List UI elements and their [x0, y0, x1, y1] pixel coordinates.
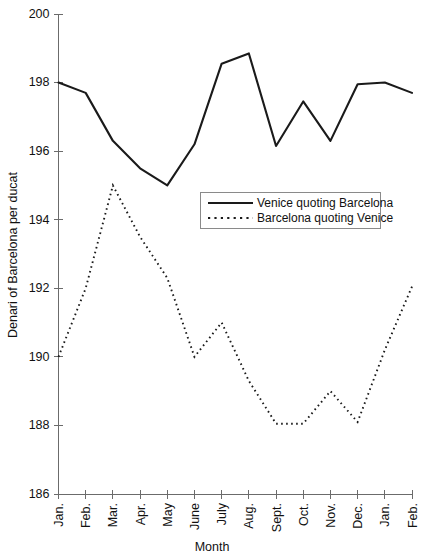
chart-container: 200198196194192190188186 Jan.Feb.Mar.Apr…	[0, 0, 425, 559]
series-layer	[59, 53, 413, 423]
y-tick-label: 188	[29, 418, 50, 432]
y-axis-tick-labels: 200198196194192190188186	[29, 7, 50, 501]
x-tick-label: Sept.	[270, 503, 284, 532]
legend-label-venice-quoting-barcelona: Venice quoting Barcelona	[257, 196, 393, 210]
x-axis-title: Month	[195, 540, 230, 554]
x-tick-label: Jan.	[52, 503, 66, 527]
y-axis-title: Denari of Barcelona per ducat	[6, 171, 20, 338]
y-tick-label: 196	[29, 144, 50, 158]
x-tick-label: Oct.	[297, 503, 311, 526]
x-axis-tick-labels: Jan.Feb.Mar.Apr.MayJuneJulyAug.Sept.Oct.…	[52, 502, 420, 532]
y-axis: 200198196194192190188186	[29, 7, 63, 501]
x-tick-label: Feb.	[79, 503, 93, 528]
x-tick-label: Dec.	[351, 503, 365, 529]
x-tick-label: Nov.	[324, 503, 338, 528]
y-tick-label: 186	[29, 487, 50, 501]
y-tick-label: 190	[29, 350, 50, 364]
x-axis: Jan.Feb.Mar.Apr.MayJuneJulyAug.Sept.Oct.…	[52, 490, 420, 533]
y-tick-label: 194	[29, 213, 50, 227]
legend-label-barcelona-quoting-venice: Barcelona quoting Venice	[257, 211, 393, 225]
y-tick-label: 200	[29, 7, 50, 21]
x-tick-label: Apr.	[134, 503, 148, 525]
y-tick-label: 192	[29, 281, 50, 295]
line-chart: 200198196194192190188186 Jan.Feb.Mar.Apr…	[0, 0, 425, 559]
x-tick-label: Aug.	[242, 503, 256, 529]
legend: Venice quoting Barcelona Barcelona quoti…	[201, 193, 394, 229]
x-tick-label: Feb.	[406, 503, 420, 528]
x-tick-label: Jan.	[378, 503, 392, 527]
x-tick-label: Mar.	[106, 503, 120, 527]
y-tick-label: 198	[29, 75, 50, 89]
x-tick-label: June	[188, 503, 202, 530]
x-tick-label: July	[215, 502, 229, 525]
x-tick-label: May	[161, 502, 175, 526]
series-line-venice-quoting-barcelona	[59, 53, 413, 185]
